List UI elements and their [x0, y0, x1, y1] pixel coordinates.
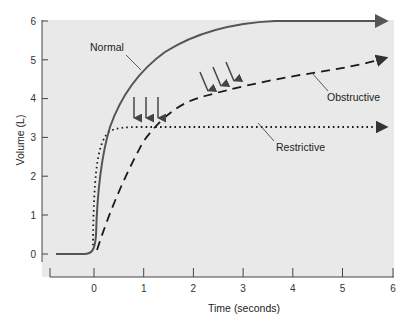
label-normal: Normal	[90, 41, 124, 53]
y-tick-1: 1	[30, 210, 36, 221]
x-tick-labels: 0 1 2 3 4 5 6	[91, 283, 396, 294]
x-tick-1: 1	[141, 283, 147, 294]
y-tick-6: 6	[30, 16, 36, 27]
y-tick-2: 2	[30, 171, 36, 182]
y-axis-title: Volume (L)	[14, 115, 26, 166]
x-tick-5: 5	[340, 283, 346, 294]
y-tick-3: 3	[30, 132, 36, 143]
x-tick-6: 6	[390, 283, 396, 294]
y-tick-4: 4	[30, 93, 36, 104]
label-obstructive: Obstructive	[327, 91, 380, 103]
x-tick-4: 4	[290, 283, 296, 294]
y-tick-labels: 6 5 4 3 2 1 0	[30, 16, 36, 260]
x-axis-title: Time (seconds)	[208, 302, 280, 314]
x-tick-0: 0	[91, 283, 97, 294]
y-tick-0: 0	[30, 249, 36, 260]
y-tick-5: 5	[30, 55, 36, 66]
spirometry-chart: 6 5 4 3 2 1 0 0 1 2 3 4 5 6 Time (second…	[0, 0, 413, 328]
label-restrictive: Restrictive	[276, 141, 325, 153]
x-tick-2: 2	[191, 283, 197, 294]
x-tick-3: 3	[240, 283, 246, 294]
